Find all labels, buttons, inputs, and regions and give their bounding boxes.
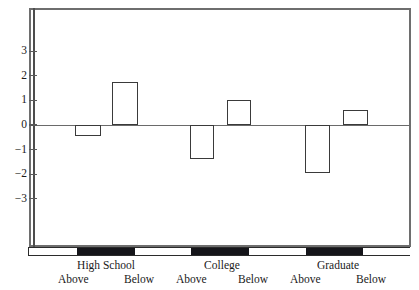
y-axis-tick-label-text: −3 <box>5 193 27 205</box>
group-sublabel-above: Above <box>58 273 89 287</box>
x-axis-ruler <box>28 247 410 256</box>
y-axis-line <box>33 8 35 247</box>
y-axis-tick <box>29 149 37 150</box>
x-axis-ruler-block <box>363 248 411 255</box>
x-axis-ruler-block <box>249 248 306 255</box>
group-sublabels: AboveBelow <box>58 273 154 287</box>
y-axis-tick <box>29 100 37 101</box>
y-axis-tick <box>29 198 37 199</box>
y-axis-tick-label-text: −1 <box>5 144 27 156</box>
bar <box>112 82 138 125</box>
group-sublabel-below: Below <box>356 273 386 287</box>
y-axis-tick-label: 3 <box>0 45 27 57</box>
y-axis-tick-label-text: −2 <box>5 168 27 180</box>
y-axis-tick-label: 0 <box>0 119 27 131</box>
x-axis-ruler-block <box>306 248 363 255</box>
plot-frame-top <box>29 8 411 10</box>
y-axis-tick-label-text: 1 <box>5 94 27 106</box>
plot-frame-outer-left <box>29 8 31 247</box>
bar <box>190 125 214 159</box>
y-axis-tick-label-text: 0 <box>5 119 27 131</box>
y-axis-tick <box>29 51 37 52</box>
group-sublabel-above: Above <box>176 273 207 287</box>
y-axis-tick-label: −1 <box>0 144 27 156</box>
y-axis-tick-label: −3 <box>0 193 27 205</box>
x-axis-ruler-block <box>191 248 249 255</box>
x-axis-ruler-block <box>135 248 191 255</box>
bar <box>305 125 330 173</box>
group-sublabels: AboveBelow <box>290 273 386 287</box>
x-axis-group-high-school: High SchoolAboveBelow <box>58 259 154 286</box>
group-sublabels: AboveBelow <box>176 273 268 287</box>
plot-frame-right <box>409 8 411 247</box>
x-axis-ruler-block <box>77 248 135 255</box>
bar <box>343 110 368 125</box>
y-axis-tick <box>29 174 37 175</box>
x-axis-ruler-block <box>29 248 77 255</box>
group-label-name: College <box>176 259 268 273</box>
y-axis-tick-label-text: 2 <box>5 70 27 82</box>
y-axis-tick-label-text: 3 <box>5 45 27 57</box>
bar <box>75 125 101 136</box>
y-axis-tick-label: 1 <box>0 94 27 106</box>
y-axis-tick-label: −2 <box>0 168 27 180</box>
group-sublabel-below: Below <box>124 273 154 287</box>
group-label-name: Graduate <box>290 259 386 273</box>
bar <box>227 100 251 125</box>
group-sublabel-above: Above <box>290 273 321 287</box>
x-axis-group-graduate: GraduateAboveBelow <box>290 259 386 286</box>
group-sublabel-below: Below <box>238 273 268 287</box>
y-axis-tick <box>29 75 37 76</box>
y-axis-tick <box>29 124 37 125</box>
x-axis-group-college: CollegeAboveBelow <box>176 259 268 286</box>
y-axis-tick-label: 2 <box>0 70 27 82</box>
bar-chart: 3210−1−2−3 High SchoolAboveBelowCollegeA… <box>0 0 419 290</box>
group-label-name: High School <box>58 259 154 273</box>
